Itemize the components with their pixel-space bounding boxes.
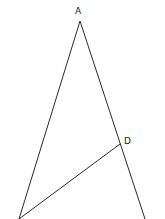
geometry-diagram: A D [0, 0, 165, 219]
segment-ac [80, 21, 145, 219]
segment-ab [19, 21, 80, 219]
vertex-label-a: A [75, 7, 81, 16]
triangle-figure [0, 0, 165, 219]
segment-bd [19, 144, 120, 219]
point-label-d: D [124, 137, 131, 146]
